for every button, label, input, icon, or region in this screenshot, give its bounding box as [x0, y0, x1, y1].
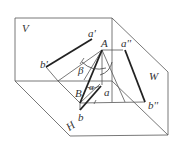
label-a-double-prime: a'': [121, 37, 132, 49]
label-A: A: [100, 37, 108, 49]
label-beta: β: [77, 64, 84, 76]
label-B: B: [75, 87, 82, 99]
label-v: V: [22, 22, 30, 34]
projector-B-b2: [80, 102, 145, 103]
v-plane: [15, 18, 112, 81]
label-b-double-prime: b'': [148, 99, 159, 111]
w-plane-edge: [112, 18, 168, 135]
label-a: a: [104, 86, 110, 98]
projection-a2-b2: [125, 50, 145, 102]
tick-mark: [94, 100, 96, 104]
label-a-prime: a': [88, 27, 97, 39]
label-alpha: α: [89, 82, 94, 92]
projection-a-prime-b-prime: [46, 39, 92, 67]
projection-diagram: V W H a' b' A a'' b'' B a b β α: [0, 0, 179, 152]
label-b-prime: b': [40, 58, 49, 70]
label-b: b: [78, 111, 84, 123]
label-w: W: [149, 70, 159, 82]
